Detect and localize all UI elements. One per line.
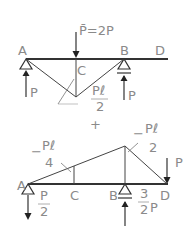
reaction-b-suffix: P	[150, 200, 158, 215]
point-d: D	[160, 188, 170, 203]
point-a: A	[17, 178, 26, 193]
point-b: B	[109, 188, 118, 203]
lower-diagram: A C B D P P 2 3 2 P − Pℓ 4 − Pℓ 2	[17, 121, 183, 226]
roller-support-icon	[118, 59, 130, 69]
reaction-b-num: 3	[140, 186, 148, 201]
superposition-diagram: P̄=2P A C B D P P Pℓ 2 + A C B D P	[0, 0, 193, 244]
reaction-b: P	[128, 88, 136, 103]
moment-c-num: Pℓ	[42, 138, 55, 153]
roller-support-icon	[119, 184, 131, 194]
plus-sign: +	[90, 117, 101, 132]
point-c: C	[70, 188, 79, 203]
pin-support-icon	[20, 59, 32, 69]
upper-diagram: P̄=2P A C B D P P Pℓ 2	[18, 23, 168, 114]
point-b: B	[120, 43, 129, 58]
moment-diagram-upper	[26, 59, 124, 97]
moment-c-den: 4	[45, 155, 53, 170]
moment-c-sign: −	[31, 144, 42, 159]
point-d: D	[155, 43, 165, 58]
moment-num: Pℓ	[92, 83, 105, 98]
reaction-a-num: P	[40, 188, 48, 203]
load-d: P	[175, 155, 183, 170]
point-c: C	[77, 63, 86, 78]
moment-b-den: 2	[149, 140, 157, 155]
reaction-b-den: 2	[140, 202, 148, 217]
point-a: A	[18, 43, 27, 58]
load-label: P̄=2P	[79, 23, 114, 38]
moment-b-num: Pℓ	[145, 121, 158, 136]
reaction-a: P	[30, 85, 38, 100]
moment-den: 2	[96, 99, 104, 114]
moment-b-sign: −	[133, 126, 144, 141]
reaction-a-den: 2	[40, 204, 48, 219]
